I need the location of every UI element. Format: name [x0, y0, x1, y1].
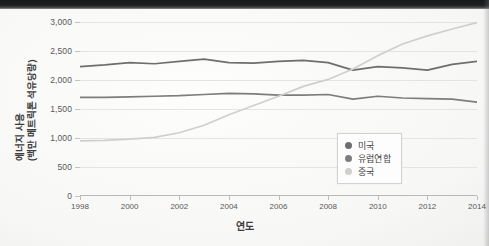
x-tick-label: 2012 — [407, 202, 447, 211]
legend-item-label: 미국 — [358, 139, 374, 152]
plot-area — [80, 22, 477, 196]
y-tick-mark — [75, 51, 80, 52]
legend-item-label: 유럽연합 — [358, 152, 391, 165]
y-tick-mark — [75, 22, 80, 23]
x-tick-mark — [378, 196, 379, 200]
series-lines — [80, 22, 477, 196]
legend-marker-icon — [345, 155, 352, 162]
series-line — [80, 59, 477, 70]
y-tick-label: 3,000 — [30, 17, 72, 27]
x-axis-title: 연도 — [0, 218, 489, 233]
legend-item[interactable]: 미국 — [345, 139, 391, 152]
y-tick-mark — [75, 138, 80, 139]
series-line — [80, 93, 477, 102]
x-tick-label: 2000 — [110, 202, 150, 211]
x-tick-mark — [80, 196, 81, 200]
x-tick-mark — [427, 196, 428, 200]
legend-item-label: 중국 — [358, 165, 374, 178]
y-tick-label: 1,500 — [30, 104, 72, 114]
legend-marker-icon — [345, 142, 352, 149]
y-tick-mark — [75, 167, 80, 168]
y-tick-label: 2,000 — [30, 75, 72, 85]
x-tick-label: 1998 — [60, 202, 100, 211]
legend-item[interactable]: 중국 — [345, 165, 391, 178]
y-axis-title-line1: 에너지 사용 — [14, 59, 26, 161]
y-tick-label: 1,000 — [30, 133, 72, 143]
chart-legend: 미국유럽연합중국 — [337, 133, 402, 184]
x-tick-mark — [130, 196, 131, 200]
y-tick-label: 500 — [30, 162, 72, 172]
y-tick-mark — [75, 109, 80, 110]
chart-page: 에너지 사용 (백만 메트릭톤 석유당량) 05001,0001,5002,00… — [0, 0, 489, 246]
x-tick-label: 2008 — [308, 202, 348, 211]
legend-marker-icon — [345, 168, 352, 175]
x-tick-label: 2002 — [159, 202, 199, 211]
y-tick-label: 0 — [30, 191, 72, 201]
x-tick-mark — [328, 196, 329, 200]
x-tick-label: 2014 — [457, 202, 489, 211]
x-tick-mark — [179, 196, 180, 200]
y-tick-mark — [75, 80, 80, 81]
series-svg — [80, 22, 477, 196]
legend-item[interactable]: 유럽연합 — [345, 152, 391, 165]
series-line — [80, 23, 477, 141]
x-tick-label: 2004 — [209, 202, 249, 211]
line-chart: 에너지 사용 (백만 메트릭톤 석유당량) 05001,0001,5002,00… — [0, 9, 489, 246]
x-tick-label: 2006 — [259, 202, 299, 211]
scan-page-edge — [0, 0, 489, 9]
x-tick-label: 2010 — [358, 202, 398, 211]
x-tick-mark — [477, 196, 478, 200]
x-tick-mark — [279, 196, 280, 200]
y-tick-label: 2,500 — [30, 46, 72, 56]
x-tick-mark — [229, 196, 230, 200]
